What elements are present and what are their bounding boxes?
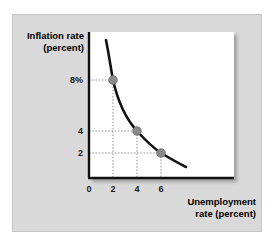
x-tick-label-6: 6 — [158, 184, 163, 194]
y-axis-title-line1: Inflation rate — [14, 30, 84, 42]
data-point-marker — [157, 149, 166, 158]
phillips-curve-line — [106, 40, 186, 167]
x-axis-title: Unemployment rate (percent) — [140, 196, 256, 219]
x-tick-label-4: 4 — [134, 184, 139, 194]
x-tick-label-0: 0 — [86, 184, 91, 194]
phillips-curve-chart: 8% 4 2 0 2 4 6 Inflation rate (percent) … — [0, 0, 275, 247]
data-point-marker — [133, 127, 142, 136]
y-axis-title: Inflation rate (percent) — [14, 30, 84, 53]
x-axis-title-line2: rate (percent) — [140, 208, 256, 220]
y-tick-label-8: 8% — [55, 75, 83, 85]
data-point-marker — [109, 76, 118, 85]
x-tick-label-2: 2 — [110, 184, 115, 194]
y-tick-label-4: 4 — [55, 126, 83, 136]
figure-root: 8% 4 2 0 2 4 6 Inflation rate (percent) … — [0, 0, 275, 247]
x-axis-title-line1: Unemployment — [140, 196, 256, 208]
y-axis-title-line2: (percent) — [14, 42, 84, 54]
leader-lines-horizontal — [89, 80, 161, 153]
y-tick-label-2: 2 — [55, 148, 83, 158]
